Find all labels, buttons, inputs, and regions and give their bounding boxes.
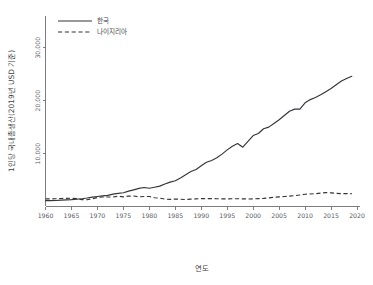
x-tick-label: 1990 [193,212,209,219]
y-tick-label: 10,000 [34,143,41,165]
x-tick-label: 1985 [167,212,183,219]
x-tick-label: 2000 [245,212,261,219]
x-tick-label: 2015 [323,212,339,219]
top-truncated-caption [0,0,373,9]
legend-label-korea: 한국 [97,17,109,25]
x-tick-label: 1970 [90,212,106,219]
y-tick-label: 20,000 [34,90,41,112]
y-tick-label: 30,000 [34,37,41,59]
legend-label-nigeria: 나이지리아 [97,27,127,36]
series-line-nigeria [46,193,352,200]
x-tick-label: 1975 [116,212,132,219]
x-tick-label: 2020 [349,212,365,219]
x-tick-label: 1980 [141,212,157,219]
chart-container: 10,00020,00030,000 196019651970197519801… [0,0,373,285]
x-tick-label: 1960 [38,212,54,219]
x-axis-title: 연도 [195,264,209,273]
x-tick-label: 2010 [297,212,313,219]
x-tick-label: 2005 [271,212,287,219]
x-tick-label: 1995 [219,212,235,219]
y-axis-title: 1인당 국내총생산(2019년 USD 기준) [7,50,16,172]
series-line-korea [46,76,352,200]
x-axis-ticks: 1960196519701975198019851990199520002005… [38,207,365,220]
x-tick-label: 1965 [64,212,80,219]
y-axis-ticks: 10,00020,00030,000 [34,37,46,165]
gdp-per-capita-line-chart: 10,00020,00030,000 196019651970197519801… [0,0,373,285]
chart-legend: 한국나이지리아 [58,17,127,36]
